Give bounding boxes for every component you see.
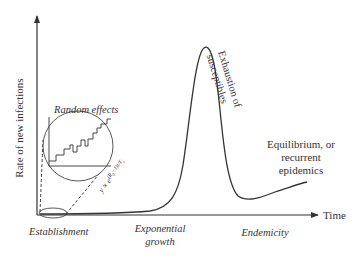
establishment-ellipse	[39, 208, 67, 218]
y-axis-label: Rate of new infections	[13, 78, 25, 177]
dashed-connector-left	[40, 140, 43, 212]
exhaustion-label: Exhaustion of susceptibles	[205, 49, 244, 112]
x-axis-label: Time	[323, 209, 346, 221]
epidemic-curve-diagram: Rate of new infections Time Random effec…	[0, 0, 362, 258]
phase-exponential-line-1: Exponential	[134, 223, 186, 234]
phase-exponential-line-2: growth	[145, 236, 174, 247]
phase-establishment: Establishment	[28, 226, 90, 237]
phase-endemicity: Endemicity	[240, 227, 289, 238]
random-effects-label: Random effects	[53, 104, 118, 115]
equilibrium-line-2: recurrent	[281, 151, 321, 163]
equilibrium-line-1: Equilibrium, or	[267, 138, 335, 150]
equilibrium-line-3: epidemics	[279, 164, 324, 176]
